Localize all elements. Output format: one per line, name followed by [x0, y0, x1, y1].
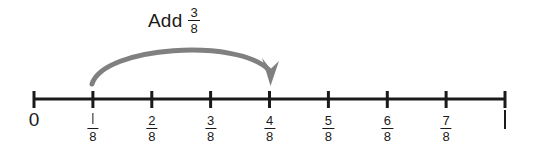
number-line-figure: Add 3 8 0 8 2 8 3 8 4 [0, 0, 538, 157]
operation-fraction-numerator: 3 [188, 6, 199, 20]
fraction-6-8: 6 8 [382, 114, 393, 143]
fraction-7-8: 7 8 [440, 114, 451, 143]
fraction-5-8-numerator: 5 [323, 114, 334, 128]
digit-one-glyph [504, 110, 506, 129]
tick-label-6-8: 6 8 [382, 112, 393, 143]
tick-label-0-text: 0 [29, 109, 40, 130]
operation-fraction-denominator: 8 [188, 21, 199, 35]
fraction-3-8-numerator: 3 [205, 114, 216, 128]
tick-label-2-8: 2 8 [146, 112, 157, 143]
operation-label: Add 3 8 [148, 6, 200, 35]
tick-label-4-8: 4 8 [264, 112, 275, 143]
tick-label-7-8: 7 8 [440, 112, 451, 143]
jump-arrow-head [262, 58, 279, 86]
fraction-4-8-denominator: 8 [264, 129, 275, 143]
fraction-1-8-denominator: 8 [87, 129, 98, 143]
fraction-6-8-numerator: 6 [382, 114, 393, 128]
fraction-1-8-numerator [90, 112, 96, 128]
tick-label-1 [504, 110, 506, 132]
fraction-5-8-denominator: 8 [323, 129, 334, 143]
fraction-7-8-denominator: 8 [440, 129, 451, 143]
tick-label-0: 0 [29, 110, 40, 129]
fraction-2-8: 2 8 [146, 114, 157, 143]
fraction-1-8: 8 [87, 112, 98, 143]
fraction-6-8-denominator: 8 [382, 129, 393, 143]
fraction-3-8-denominator: 8 [205, 129, 216, 143]
fraction-3-8: 3 8 [205, 114, 216, 143]
tick-label-1-8: 8 [87, 112, 98, 143]
digit-one-glyph [92, 113, 94, 124]
jump-arrow-arc [92, 50, 269, 84]
fraction-4-8: 4 8 [264, 114, 275, 143]
operation-word: Add [148, 11, 182, 30]
fraction-2-8-numerator: 2 [146, 114, 157, 128]
jump-arrow [92, 50, 279, 86]
fraction-4-8-numerator: 4 [264, 114, 275, 128]
fraction-2-8-denominator: 8 [146, 129, 157, 143]
operation-fraction: 3 8 [188, 6, 199, 35]
tick-label-5-8: 5 8 [323, 112, 334, 143]
tick-label-3-8: 3 8 [205, 112, 216, 143]
fraction-5-8: 5 8 [323, 114, 334, 143]
fraction-7-8-numerator: 7 [440, 114, 451, 128]
